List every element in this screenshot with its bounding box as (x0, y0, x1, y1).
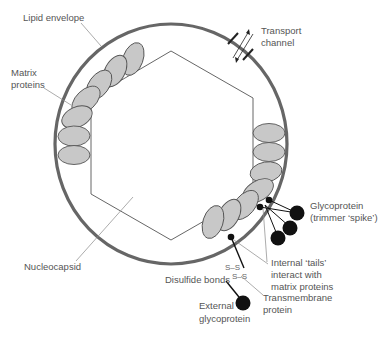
label-matrix-proteins-1: Matrix (11, 67, 37, 78)
label-external-glycoprotein-1: External (199, 300, 234, 311)
transport-channel-icon (228, 29, 253, 63)
label-lipid-envelope: Lipid envelope (23, 12, 84, 23)
label-matrix-proteins-2: proteins (11, 79, 45, 90)
label-nucleocapsid: Nucleocapsid (24, 261, 81, 272)
label-disulfide-bonds: Disulfide bonds (165, 274, 230, 285)
label-internal-tails-2: interact with (271, 269, 322, 280)
label-internal-tails-1: Internal ‘tails’ (271, 257, 326, 268)
label-transport-channel-2: channel (261, 37, 294, 48)
label-transmembrane-1: Transmembrane (263, 292, 332, 303)
label-transport-channel-1: Transport (261, 25, 302, 36)
label-glycoprotein-1: Glycoprotein (310, 200, 363, 211)
virus-diagram: S–S S–S Lipid envelope Matrix proteins T… (0, 0, 384, 339)
matrix-proteins-right (198, 124, 285, 242)
label-internal-tails-3: matrix proteins (271, 281, 334, 292)
label-external-glycoprotein-2: glycoprotein (199, 313, 250, 324)
label-transmembrane-2: protein (263, 304, 292, 315)
lipid-envelope (55, 24, 287, 264)
matrix-proteins-upper-left (58, 40, 149, 165)
label-glycoprotein-2: (trimmer ‘spike’) (310, 212, 378, 223)
ss-bond-1: S–S (225, 263, 240, 272)
